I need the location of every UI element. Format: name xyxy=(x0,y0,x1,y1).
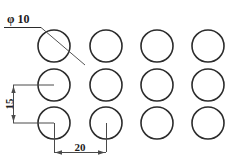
drawing-svg: φ 10 15 20 xyxy=(0,0,228,162)
hole-circle-r2c3 xyxy=(141,69,173,101)
vertical-dim-arrow-bottom xyxy=(11,115,15,122)
horizontal-dim-arrow-right xyxy=(98,150,105,154)
horizontal-dim-arrow-left xyxy=(55,150,62,154)
vertical-pitch-dimension-text: 15 xyxy=(3,98,15,110)
hole-circle-r3c4 xyxy=(192,107,224,139)
technical-drawing-canvas: φ 10 15 20 xyxy=(0,0,228,162)
hole-circle-r2c2 xyxy=(90,69,122,101)
diameter-dimension-text: φ 10 xyxy=(7,12,30,26)
horizontal-pitch-dimension-text: 20 xyxy=(75,141,87,153)
hole-row-1 xyxy=(38,30,224,62)
hole-circle-r1c2 xyxy=(90,30,122,62)
hole-circle-r1c1 xyxy=(38,30,70,62)
vertical-dim-arrow-top xyxy=(11,86,15,93)
vertical-pitch-dimension xyxy=(11,85,54,123)
hole-circle-r1c4 xyxy=(192,30,224,62)
hole-circle-r2c4 xyxy=(192,69,224,101)
hole-circle-r3c3 xyxy=(141,107,173,139)
hole-row-3 xyxy=(38,107,224,139)
hole-row-2 xyxy=(38,69,224,101)
hole-circle-r1c3 xyxy=(141,30,173,62)
hole-grid xyxy=(38,30,224,139)
